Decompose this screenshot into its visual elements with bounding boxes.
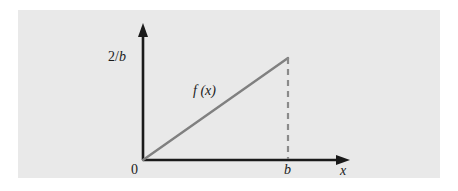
y-tick-numerator: 2/ [108,49,119,64]
y-axis [138,23,148,160]
y-tick-variable-b: b [119,49,126,64]
y-axis-tick-label-2-over-b: 2/b [108,50,126,64]
function-label-fx: f (x) [193,84,216,98]
figure-root: 2/b f (x) 0 b x [0,0,458,191]
x-axis-label: x [340,164,346,178]
x-axis [143,155,350,165]
x-axis-tick-label-b: b [284,163,291,177]
function-line-fx [143,58,288,160]
origin-label: 0 [131,163,138,177]
plot-canvas [0,0,458,191]
